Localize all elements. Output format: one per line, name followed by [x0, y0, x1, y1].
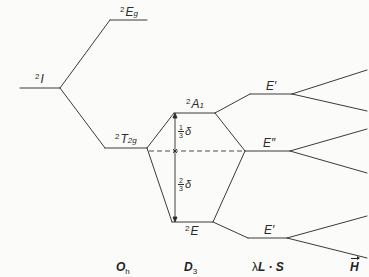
label-Ep-upper: E′ [266, 80, 276, 92]
connector-2A1-Ep-upper [215, 94, 250, 113]
connector-2I-2T2g [60, 88, 105, 148]
connector-2T2g-2A1 [147, 113, 174, 148]
connector-2E-Ep-lower [213, 222, 248, 238]
label-Epp: E″ [263, 137, 275, 149]
label-two-thirds-delta: 23δ [178, 177, 191, 192]
label-2I: 2I [35, 73, 44, 85]
label-2T2g: 2T2g [115, 133, 137, 145]
axis-label-D3: D3 [184, 260, 197, 274]
axis-label-Oh: Oh [116, 260, 130, 274]
connector-2I-2Eg [60, 20, 110, 88]
zeeman-Epp-a [290, 129, 367, 151]
label-Ep-lower: E′ [264, 224, 274, 236]
zeeman-Ep-lower-b [287, 238, 367, 258]
vector-arrow-icon: H [350, 260, 359, 274]
connector-2T2g-2E [147, 148, 172, 222]
zeeman-Epp-b [290, 151, 367, 173]
label-2E: 2E [185, 225, 198, 237]
label-2Eg: 2Eg [120, 6, 138, 18]
connector-2A1-Epp [215, 113, 245, 151]
zeeman-Ep-upper-a [292, 70, 367, 94]
connector-2E-Epp [213, 151, 245, 222]
label-2A1: 2A1 [186, 98, 204, 110]
label-one-third-delta: 13δ [178, 124, 191, 139]
axis-label-H-field: H [350, 260, 359, 274]
zeeman-Ep-upper-b [292, 94, 367, 111]
zeeman-Ep-lower-a [287, 216, 367, 238]
axis-label-LS: λL · S [252, 260, 284, 274]
arrowhead-down-icon [173, 217, 177, 222]
